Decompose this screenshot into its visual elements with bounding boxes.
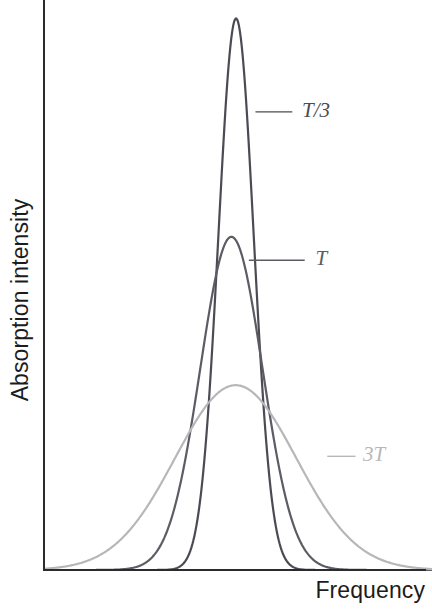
curves-group xyxy=(44,18,432,570)
curve-3T xyxy=(44,385,432,569)
curve-T-over-3 xyxy=(44,18,432,570)
absorption-lineshape-chart: T/3T3T Frequency Absorption intensity xyxy=(0,0,432,609)
series-label-T-over-3: T/3 xyxy=(302,98,330,122)
chart-figure: T/3T3T Frequency Absorption intensity xyxy=(0,0,432,609)
series-label-T: T xyxy=(316,246,329,270)
curve-T xyxy=(44,237,432,570)
y-axis-title: Absorption intensity xyxy=(7,198,33,401)
x-axis-title: Frequency xyxy=(315,577,425,603)
series-label-3T: 3T xyxy=(362,442,387,466)
